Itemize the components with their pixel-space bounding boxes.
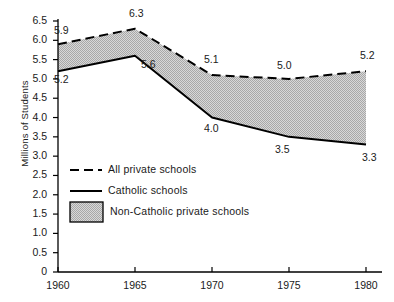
data-point-label: 3.3 (362, 151, 377, 163)
y-tick-label: 2.5 (17, 168, 47, 180)
y-axis-ticks (53, 21, 58, 272)
y-tick-label: 2.0 (17, 188, 47, 200)
y-tick-label: 6.5 (17, 14, 47, 26)
chart-plot-area (0, 0, 394, 302)
data-point-label: 5.2 (360, 49, 375, 61)
y-tick-label: 4.5 (17, 91, 47, 103)
legend-label-all-private-schools: All private schools (108, 163, 196, 175)
chart-container: Millions of Students 00.51.01.52.02.53.0… (0, 0, 394, 302)
y-tick-label: 5.0 (17, 72, 47, 84)
x-tick-label: 1980 (343, 279, 389, 291)
x-tick-label: 1965 (112, 279, 158, 291)
y-tick-label: 1.5 (17, 207, 47, 219)
data-point-label: 3.5 (275, 143, 290, 155)
data-point-label: 6.3 (129, 7, 144, 19)
y-tick-label: 1.0 (17, 226, 47, 238)
x-tick-label: 1970 (189, 279, 235, 291)
data-point-label: 5.2 (54, 73, 69, 85)
y-tick-label: 5.5 (17, 53, 47, 65)
y-tick-label: 6.0 (17, 33, 47, 45)
legend-marker-non-catholic-private-schools (70, 202, 103, 222)
x-axis-ticks (58, 267, 366, 272)
y-tick-label: 0 (17, 265, 47, 277)
legend-label-catholic-schools: Catholic schools (108, 184, 188, 196)
data-point-label: 5.1 (204, 53, 219, 65)
data-point-label: 5.0 (277, 59, 292, 71)
legend-label-non-catholic-private-schools: Non-Catholic private schools (110, 205, 249, 217)
x-tick-label: 1975 (266, 279, 312, 291)
data-point-label: 5.9 (54, 24, 69, 36)
y-tick-label: 0.5 (17, 246, 47, 258)
data-point-label: 5.6 (141, 58, 156, 70)
x-tick-label: 1960 (35, 279, 81, 291)
y-tick-label: 4.0 (17, 111, 47, 123)
data-point-label: 4.0 (204, 122, 219, 134)
y-tick-label: 3.0 (17, 149, 47, 161)
y-tick-label: 3.5 (17, 130, 47, 142)
